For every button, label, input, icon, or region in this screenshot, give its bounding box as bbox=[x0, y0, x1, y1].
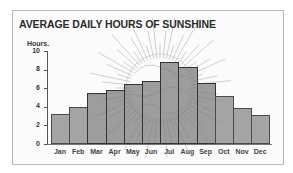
y-tick bbox=[44, 88, 47, 89]
bar-sep bbox=[197, 83, 216, 144]
x-tick-label: Oct bbox=[215, 148, 233, 155]
bar-oct bbox=[215, 96, 234, 144]
y-tick-label: 6 bbox=[20, 84, 40, 91]
y-tick bbox=[44, 70, 47, 71]
y-axis bbox=[47, 51, 48, 144]
bar-jan bbox=[51, 114, 70, 144]
x-tick-label: Jun bbox=[142, 148, 160, 155]
bar-nov bbox=[233, 108, 252, 144]
y-tick-label: 2 bbox=[20, 121, 40, 128]
x-axis bbox=[47, 144, 272, 145]
x-tick-label: Aug bbox=[178, 148, 196, 155]
x-tick-label: Feb bbox=[69, 148, 87, 155]
bar-feb bbox=[69, 107, 88, 144]
y-tick bbox=[44, 51, 47, 52]
x-tick-label: Dec bbox=[251, 148, 269, 155]
x-tick-label: Apr bbox=[106, 148, 124, 155]
bar-jun bbox=[142, 81, 161, 144]
y-tick-label: 0 bbox=[20, 140, 40, 147]
y-tick-label: 4 bbox=[20, 102, 40, 109]
bar-jul bbox=[160, 62, 179, 144]
bar-dec bbox=[251, 115, 270, 144]
y-tick bbox=[44, 107, 47, 108]
bar-aug bbox=[178, 67, 197, 144]
y-tick-label: 8 bbox=[20, 65, 40, 72]
chart-title: AVERAGE DAILY HOURS OF SUNSHINE bbox=[19, 18, 216, 30]
y-tick bbox=[44, 125, 47, 126]
x-tick-label: Jul bbox=[160, 148, 178, 155]
x-tick-label: May bbox=[124, 148, 142, 155]
x-tick-label: Jan bbox=[51, 148, 69, 155]
x-tick-label: Sep bbox=[197, 148, 215, 155]
bar-mar bbox=[87, 93, 106, 144]
bar-may bbox=[124, 84, 143, 144]
bar-apr bbox=[106, 90, 125, 144]
x-tick-label: Mar bbox=[87, 148, 105, 155]
y-tick-label: 10 bbox=[20, 47, 40, 54]
x-tick-label: Nov bbox=[233, 148, 251, 155]
